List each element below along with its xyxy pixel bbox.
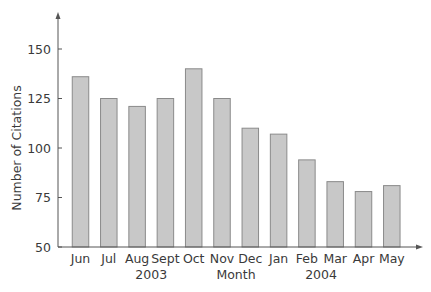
- y-axis-title: Number of Citations: [9, 85, 24, 210]
- x-tick-label: Jan: [268, 251, 288, 266]
- bar-mar: [327, 182, 344, 247]
- x-tick-label: Aug: [125, 251, 149, 266]
- bar-may: [384, 186, 401, 247]
- y-axis-arrow-icon: [56, 12, 61, 19]
- bar-dec: [242, 128, 258, 247]
- bar-jan: [270, 134, 287, 247]
- bar-feb: [299, 160, 316, 247]
- y-tick-label: 75: [35, 190, 51, 205]
- x-tick-label: Nov: [210, 251, 235, 266]
- bar-sept: [157, 99, 174, 248]
- bar-jul: [101, 99, 118, 248]
- bar-oct: [185, 69, 202, 247]
- x-tick-label: Apr: [353, 251, 375, 266]
- year-label: 2003: [135, 267, 167, 282]
- bar-apr: [355, 192, 372, 247]
- x-tick-label: May: [379, 251, 405, 266]
- x-tick-label: Jul: [100, 251, 116, 266]
- bar-aug: [129, 106, 146, 247]
- year-label: 2004: [305, 267, 337, 282]
- y-tick-label: 150: [27, 42, 51, 57]
- bar-jun: [72, 77, 89, 247]
- x-axis-title: Month: [216, 267, 255, 282]
- y-tick-label: 50: [35, 240, 51, 255]
- x-axis-arrow-icon: [416, 245, 423, 250]
- y-axis-ticks: 5075100125150: [27, 42, 62, 255]
- x-tick-label: Jun: [70, 251, 91, 266]
- x-tick-label: Dec: [238, 251, 262, 266]
- x-tick-label: Feb: [296, 251, 318, 266]
- bars: [72, 69, 400, 247]
- x-tick-label: Mar: [323, 251, 347, 266]
- x-axis-labels: JunJulAugSeptOctNovDecJanFebMarAprMay: [70, 251, 406, 266]
- y-tick-label: 100: [27, 141, 51, 156]
- bar-nov: [214, 99, 231, 248]
- bar-chart: 5075100125150 JunJulAugSeptOctNovDecJanF…: [0, 0, 431, 292]
- x-tick-label: Oct: [183, 251, 205, 266]
- x-tick-label: Sept: [151, 251, 180, 266]
- y-tick-label: 125: [27, 91, 51, 106]
